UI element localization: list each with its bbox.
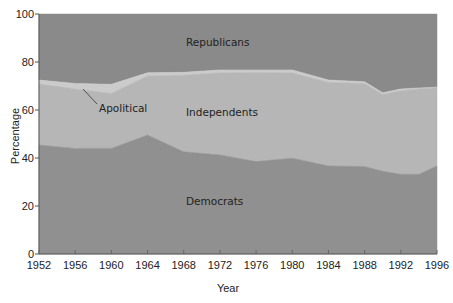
y-tick-label: 80 (22, 56, 34, 68)
x-tick-label: 1960 (99, 259, 123, 271)
x-axis-title: Year (217, 282, 240, 294)
x-tick-label: 1956 (63, 259, 87, 271)
democrats-label: Democrats (186, 195, 243, 207)
x-tick-label: 1984 (316, 259, 340, 271)
stacked-area-chart: 020406080100 195219561960196419681972197… (0, 0, 453, 303)
x-tick-label: 1992 (389, 259, 413, 271)
x-tick-label: 1996 (425, 259, 449, 271)
x-tick-label: 1968 (171, 259, 195, 271)
x-tick-label: 1980 (280, 259, 304, 271)
x-tick-label: 1952 (27, 259, 51, 271)
x-tick-label: 1964 (135, 259, 159, 271)
independents-label: Independents (186, 106, 258, 118)
y-tick-label: 60 (22, 104, 34, 116)
y-tick-label: 100 (16, 8, 34, 20)
x-tick-label: 1976 (244, 259, 268, 271)
x-tick-label: 1988 (352, 259, 376, 271)
x-tick-label: 1972 (208, 259, 232, 271)
republicans-label: Republicans (186, 36, 249, 48)
y-tick-label: 20 (22, 200, 34, 212)
y-tick-label: 40 (22, 152, 34, 164)
plot-areas (39, 14, 437, 254)
apolitical-label: Apolitical (99, 102, 147, 114)
y-axis-title: Percentage (9, 108, 21, 164)
